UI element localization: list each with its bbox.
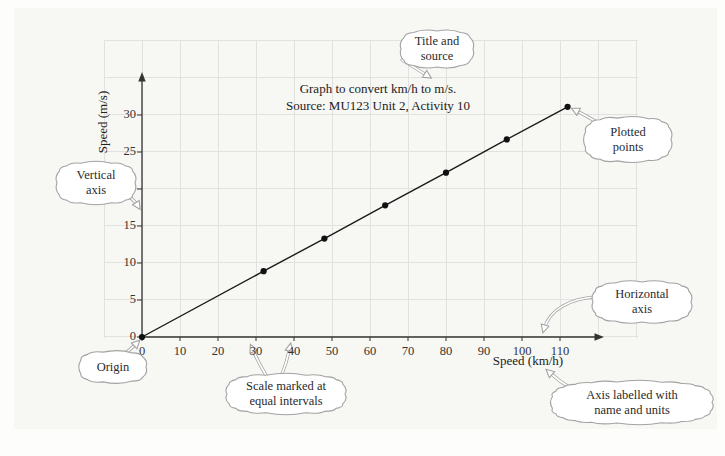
chart-title-block: Graph to convert km/h to m/s. Source: MU… (238, 80, 518, 114)
callout-text: equal intervals (249, 394, 322, 409)
data-series (139, 104, 571, 340)
x-tick-label: 20 (212, 344, 225, 359)
x-tick-label: 100 (513, 344, 532, 359)
callout-text: Title and (415, 34, 459, 49)
callout-text: Horizontal (615, 287, 668, 302)
data-point (321, 235, 327, 241)
data-point (565, 104, 571, 110)
data-point (139, 334, 145, 340)
y-tick-label: 15 (106, 218, 136, 233)
callout-text: Vertical (77, 168, 116, 183)
x-tick-label: 80 (440, 344, 453, 359)
x-tick-label: 60 (364, 344, 377, 359)
callout-origin: Origin (79, 351, 147, 383)
callout-title-and-source: Title and source (400, 30, 474, 68)
x-tick-label: 70 (402, 344, 415, 359)
x-tick-label: 110 (551, 344, 569, 359)
x-tick-label: 40 (288, 344, 301, 359)
callout-scale-equal-intervals: Scale marked at equal intervals (226, 374, 346, 414)
callout-text: axis (86, 183, 106, 198)
callout-axis-labelled: Axis labelled with name and units (551, 381, 713, 424)
callout-text: Axis labelled with (586, 388, 678, 403)
y-tick-label: 0 (106, 329, 136, 344)
callout-vertical-axis: Vertical axis (56, 162, 136, 204)
callout-text: axis (632, 302, 652, 317)
x-axis-arrowhead (595, 333, 605, 340)
y-tick-label: 30 (106, 107, 136, 122)
callout-text: points (613, 140, 644, 155)
x-tick-label: 10 (174, 344, 187, 359)
data-point (504, 136, 510, 142)
callout-plotted-points: Plotted points (584, 117, 672, 162)
chart-title: Graph to convert km/h to m/s. (238, 80, 518, 97)
conversion-line (142, 107, 568, 337)
data-point (443, 170, 449, 176)
chart-source: Source: MU123 Unit 2, Activity 10 (238, 97, 518, 114)
data-point (382, 202, 388, 208)
callout-text: Plotted (610, 125, 645, 140)
callout-text: name and units (594, 403, 670, 418)
callout-text: source (421, 49, 454, 64)
y-axis-arrowhead (138, 72, 145, 82)
tick-marks (137, 115, 560, 341)
x-tick-label: 90 (478, 344, 491, 359)
figure-page: Graph to convert km/h to m/s. Source: MU… (0, 0, 725, 456)
x-tick-label: 50 (326, 344, 339, 359)
y-tick-label: 10 (106, 255, 136, 270)
callout-horizontal-axis: Horizontal axis (592, 281, 692, 323)
data-point (261, 268, 267, 274)
x-tick-label: 30 (250, 344, 263, 359)
y-tick-label: 5 (106, 292, 136, 307)
callout-text: Scale marked at (246, 379, 326, 394)
callout-text: Origin (97, 360, 130, 375)
